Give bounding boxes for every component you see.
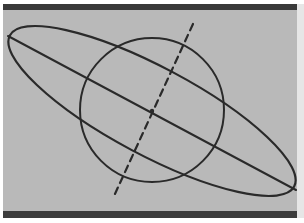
geometric-figure bbox=[0, 0, 304, 223]
diagram-photo-frame bbox=[0, 0, 304, 223]
center-point bbox=[150, 109, 154, 113]
